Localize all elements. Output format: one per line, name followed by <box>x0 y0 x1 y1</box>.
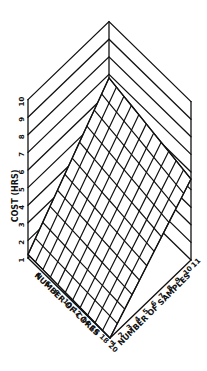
z-tick-label: 1 <box>18 257 26 262</box>
y-tick-label: 11 <box>190 257 203 270</box>
z-axis-label: COST (HRS) <box>11 170 20 223</box>
z-tick-label: 9 <box>18 117 26 122</box>
z-tick-label: 8 <box>18 134 26 139</box>
z-tick-label: 2 <box>18 240 26 245</box>
surface-chart: 123456789104681012141618201234567891011 … <box>0 0 207 371</box>
z-tick-label: 10 <box>18 97 26 107</box>
z-tick-label: 7 <box>18 152 26 157</box>
